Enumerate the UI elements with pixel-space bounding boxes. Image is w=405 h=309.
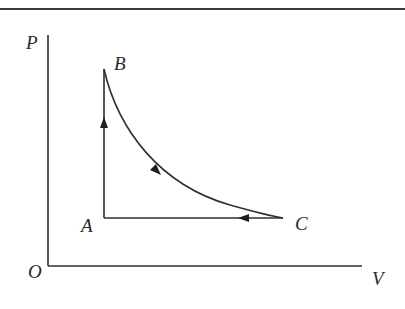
origin-label: O	[28, 261, 42, 282]
p-axis-label: P	[25, 32, 38, 53]
pv-diagram: P V O B A C	[0, 0, 405, 309]
point-a-label: A	[79, 215, 93, 236]
arrow-up-icon	[100, 117, 108, 128]
arrow-left-icon	[238, 214, 249, 222]
v-axis-label: V	[372, 268, 386, 289]
point-b-label: B	[114, 53, 126, 74]
point-c-label: C	[295, 213, 308, 234]
process-b-c	[104, 69, 283, 218]
